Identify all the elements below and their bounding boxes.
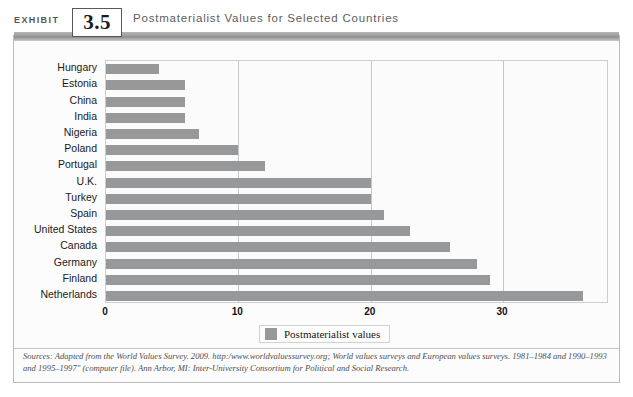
bar-row [106, 288, 609, 304]
y-axis-label: Canada [0, 239, 97, 251]
bar-row [106, 142, 609, 158]
x-axis-tick-label: 10 [232, 306, 243, 317]
exhibit-header: EXHIBIT 3.5 Postmaterialist Values for S… [0, 6, 633, 36]
y-axis-label: Spain [0, 207, 97, 219]
bar [106, 178, 371, 188]
bar [106, 64, 159, 74]
bar-row [106, 175, 609, 191]
legend-swatch-icon [265, 328, 277, 340]
chart-plot-area [105, 60, 608, 303]
y-axis-label: China [0, 94, 97, 106]
source-divider [14, 348, 619, 349]
bar [106, 145, 238, 155]
y-axis-label: Hungary [0, 61, 97, 73]
x-axis-tick-label: 30 [497, 306, 508, 317]
y-axis-label: Nigeria [0, 126, 97, 138]
exhibit-number-box: 3.5 [72, 8, 122, 37]
source-line-1: Sources: Adapted from the World Values S… [23, 351, 510, 361]
y-axis-label: United States [0, 223, 97, 235]
y-axis-label: Finland [0, 272, 97, 284]
bar [106, 210, 384, 220]
bar [106, 194, 371, 204]
y-axis-label: India [0, 110, 97, 122]
bar [106, 291, 583, 301]
bar [106, 113, 185, 123]
exhibit-number: 3.5 [83, 12, 111, 33]
bar-row [106, 207, 609, 223]
exhibit-figure: EXHIBIT 3.5 Postmaterialist Values for S… [0, 0, 633, 397]
y-axis-label: Poland [0, 142, 97, 154]
bar-row [106, 158, 609, 174]
bar [106, 129, 199, 139]
bar-row [106, 239, 609, 255]
bar-row [106, 256, 609, 272]
bar-row [106, 94, 609, 110]
y-axis-label: Germany [0, 256, 97, 268]
legend-label: Postmaterialist values [284, 328, 380, 340]
exhibit-word: EXHIBIT [14, 15, 59, 25]
bar-row [106, 61, 609, 77]
bar-row [106, 110, 609, 126]
bar [106, 259, 477, 269]
bar-series [106, 61, 607, 302]
bar-row [106, 191, 609, 207]
bar [106, 226, 410, 236]
bar [106, 275, 490, 285]
y-axis-label: Portugal [0, 158, 97, 170]
exhibit-title: Postmaterialist Values for Selected Coun… [133, 12, 399, 24]
y-axis-label: Estonia [0, 77, 97, 89]
bar [106, 242, 450, 252]
x-axis-tick-label: 0 [102, 306, 108, 317]
bar [106, 97, 185, 107]
x-axis-tick-label: 20 [364, 306, 375, 317]
bar [106, 80, 185, 90]
y-axis-label: Turkey [0, 191, 97, 203]
bar-row [106, 223, 609, 239]
y-axis-label: U.K. [0, 175, 97, 187]
bar-row [106, 126, 609, 142]
y-axis-label: Netherlands [0, 288, 97, 300]
source-note: Sources: Adapted from the World Values S… [23, 351, 613, 374]
bar-row [106, 272, 609, 288]
bar [106, 161, 265, 171]
chart-legend: Postmaterialist values [259, 325, 390, 343]
bar-row [106, 77, 609, 93]
